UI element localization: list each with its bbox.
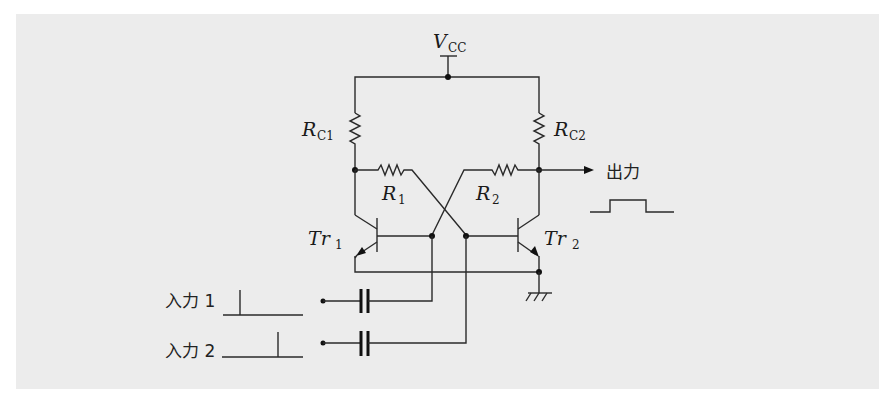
resistor-r2: R 2 <box>432 165 539 235</box>
flip-flop-circuit-diagram: V CC R C1 R C2 R 1 R 2 出力 <box>0 0 891 401</box>
svg-text:出力: 出力 <box>606 162 640 182</box>
svg-text:1: 1 <box>335 238 343 252</box>
svg-text:R: R <box>301 118 316 140</box>
input-1: 入力 1 <box>165 236 432 315</box>
svg-text:2: 2 <box>572 238 580 252</box>
svg-text:2: 2 <box>492 193 500 207</box>
svg-text:CC: CC <box>448 41 466 55</box>
vcc-terminal <box>440 56 457 77</box>
resistor-rc1: R C1 <box>301 113 360 170</box>
vcc-node <box>445 74 451 80</box>
ground-icon <box>526 272 552 301</box>
supply-rail <box>355 77 539 113</box>
svg-text:V: V <box>433 30 449 52</box>
svg-text:Tr: Tr <box>544 227 568 249</box>
svg-text:R: R <box>381 182 396 204</box>
emitter-rail <box>355 256 539 272</box>
svg-text:C1: C1 <box>317 129 334 143</box>
svg-text:入力 1: 入力 1 <box>165 291 215 311</box>
transistor-tr1: Tr 1 <box>308 170 432 258</box>
svg-text:C2: C2 <box>569 129 586 143</box>
vcc-label: V CC <box>433 30 466 55</box>
svg-text:入力 2: 入力 2 <box>165 341 215 361</box>
svg-text:Tr: Tr <box>308 227 332 249</box>
resistor-rc2: R C2 <box>534 113 586 170</box>
svg-text:1: 1 <box>398 193 406 207</box>
output-terminal: 出力 <box>539 162 640 182</box>
output-pulse-waveform <box>590 200 674 212</box>
svg-text:R: R <box>553 118 568 140</box>
svg-text:R: R <box>475 182 490 204</box>
